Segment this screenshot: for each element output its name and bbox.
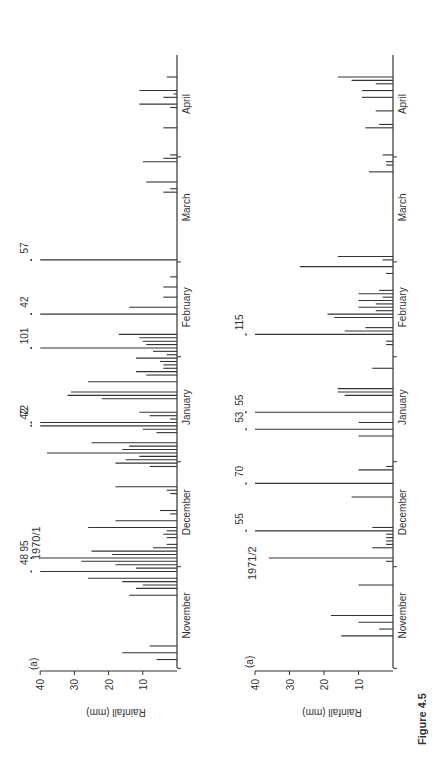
month-label: February (181, 287, 192, 327)
overflow-value: 55 (234, 513, 245, 525)
figure-caption: Figure 4.5 (416, 693, 428, 745)
rainfall-axis-label: Rainfall (mm) (302, 707, 361, 718)
rainfall-tick-label: 20 (319, 679, 330, 691)
rainfall-tick-label: 10 (354, 679, 365, 691)
panel-label: (a) (28, 658, 39, 670)
rainfall-tick-label: 40 (35, 679, 46, 691)
overflow-value: 48 (19, 553, 30, 565)
overflow-value: 70 (234, 465, 245, 477)
month-label: January (397, 389, 408, 425)
rainfall-figure: 10203040Rainfall (mm)NovemberDecemberJan… (0, 0, 440, 763)
overflow-value: 95 (19, 540, 30, 552)
overflow-value: 57 (19, 242, 30, 254)
month-label: December (397, 488, 408, 535)
month-label: November (397, 592, 408, 639)
rainfall-tick-label: 10 (138, 679, 149, 691)
month-label: March (181, 194, 192, 222)
month-label: April (181, 94, 192, 114)
month-label: February (397, 287, 408, 327)
rainfall-tick-label: 40 (250, 679, 261, 691)
month-label: November (181, 592, 192, 639)
overflow-value: 42 (19, 296, 30, 308)
panel-label: (a) (244, 656, 255, 668)
overflow-value: 101 (19, 327, 30, 344)
panel-title: 1971/2 (246, 546, 258, 580)
overflow-value: 55 (234, 394, 245, 406)
overflow-value: 72 (19, 404, 30, 416)
rainfall-tick-label: 30 (285, 679, 296, 691)
rainfall-axis-label: Rainfall (mm) (86, 707, 145, 718)
month-label: January (181, 389, 192, 425)
month-label: December (181, 488, 192, 535)
overflow-value: 53 (234, 411, 245, 423)
panel-title: 1970/1 (30, 526, 42, 560)
overflow-value: 115 (234, 314, 245, 330)
month-label: April (397, 94, 408, 114)
panel-1970-1: 10203040Rainfall (mm)NovemberDecemberJan… (19, 55, 192, 718)
panel-1971-2: 10203040Rainfall (mm)NovemberDecemberJan… (234, 55, 408, 718)
rainfall-tick-label: 30 (69, 679, 80, 691)
month-label: March (397, 194, 408, 222)
rainfall-tick-label: 20 (104, 679, 115, 691)
